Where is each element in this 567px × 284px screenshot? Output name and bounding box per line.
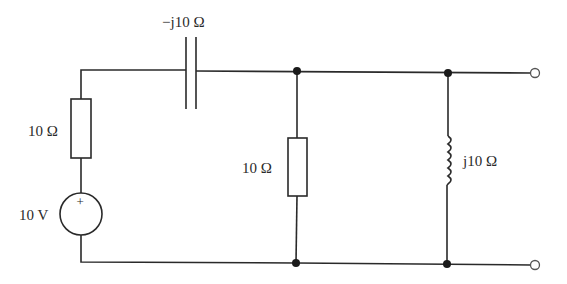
series-resistor-label: 10 Ω [28,123,58,139]
wire-shunt-bottom [296,196,297,263]
circuit-diagram: 10 Ω −j10 Ω + 10 V 10 Ω j10 Ω [0,0,567,284]
node-top-inductor [444,69,452,77]
node-bottom-inductor [443,260,451,268]
terminal-top [531,69,540,78]
series-resistor [71,99,91,158]
inductor-coil [447,136,451,185]
voltage-source: + [60,193,102,235]
shunt-resistor [288,138,307,196]
wire-top-right [196,71,531,73]
node-top-shunt [293,67,301,75]
inductor-label: j10 Ω [462,153,497,169]
node-bottom-shunt [292,259,300,267]
terminal-bottom [531,261,540,270]
capacitor [186,37,196,109]
plus-sign-icon: + [77,194,84,209]
wire-bottom [81,235,531,265]
wire-left-top [81,70,186,99]
shunt-resistor-label: 10 Ω [242,160,272,176]
capacitor-label: −j10 Ω [162,14,205,30]
voltage-source-label: 10 V [19,207,48,223]
